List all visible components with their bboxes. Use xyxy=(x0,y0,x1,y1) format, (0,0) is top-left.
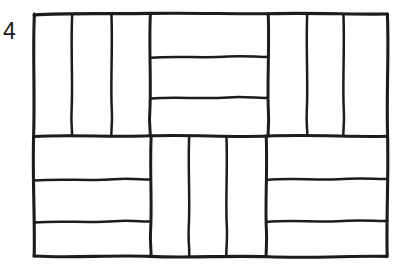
tile-divider-top-middle-1 xyxy=(151,56,268,58)
tiling-diagram xyxy=(0,0,415,279)
frame-bottom-edge xyxy=(34,256,387,257)
tile-divider-top-right-2 xyxy=(343,14,344,135)
block-divider-horizontal-middle xyxy=(34,135,387,136)
block-divider-vertical-bottom-right xyxy=(266,136,267,256)
tile-divider-bottom-middle-2 xyxy=(226,136,227,256)
tile-divider-top-right-1 xyxy=(307,14,308,136)
tile-divider-bottom-left-1 xyxy=(34,179,151,181)
tile-divider-top-left-2 xyxy=(111,14,112,136)
block-divider-vertical-top-left xyxy=(149,14,150,136)
tile-divider-top-left-1 xyxy=(71,15,72,136)
figure-container: 4 xyxy=(0,0,415,279)
block-divider-vertical-top-right xyxy=(268,14,269,136)
frame-top-edge xyxy=(34,13,387,15)
block-divider-vertical-bottom-left xyxy=(150,136,151,256)
tile-divider-bottom-right-2 xyxy=(267,220,388,222)
tile-divider-top-middle-2 xyxy=(151,97,268,99)
tile-divider-bottom-right-1 xyxy=(267,178,388,180)
tile-divider-bottom-left-2 xyxy=(34,221,151,223)
tile-divider-bottom-middle-1 xyxy=(189,136,190,256)
